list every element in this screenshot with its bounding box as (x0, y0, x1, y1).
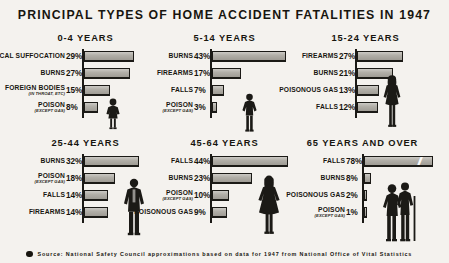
bar-rows: BURNS43%FIREARMS17%FALLS7%POISON(EXCEPT … (152, 48, 297, 116)
bar-row: POISONOUS GAS9% (152, 204, 297, 221)
bar-row: POISON(EXCEPT GAS)10% (152, 187, 297, 204)
bar-category-label: POISONOUS GAS (134, 204, 193, 221)
bar-container (212, 65, 241, 82)
bar-container (212, 48, 286, 65)
bar-value-label: 10% (194, 187, 210, 204)
bar-container (364, 187, 367, 204)
bar-category-label: FALLS (316, 99, 338, 116)
bar (212, 68, 241, 79)
bar-container (212, 99, 217, 116)
bar-category-label: POISON(EXCEPT GAS) (35, 99, 65, 116)
bar-category-label: FIREARMS (302, 48, 338, 65)
bar-category-name: POISONOUS GAS (279, 87, 338, 94)
bar-container (84, 204, 108, 221)
bar-category-label: FALLS (171, 153, 193, 170)
bar-category-name: FIREARMS (29, 209, 65, 216)
panel-title: 15-24 YEARS (293, 33, 438, 43)
bar-category-name: FALLS (323, 158, 345, 165)
bar-container (212, 170, 252, 187)
bar-row: POISONOUS GAS13% (293, 82, 438, 99)
bar-category-name: POISONOUS GAS (286, 192, 345, 199)
bar (357, 68, 393, 79)
bar-container (357, 82, 379, 99)
bar-row: FALLS12% (293, 99, 438, 116)
bar-row: FALLS7% (152, 82, 297, 99)
bar-category-name: FIREARMS (302, 53, 338, 60)
age-group-panel: 45-64 YEARSFALLS44%BURNS23%POISON(EXCEPT… (152, 138, 297, 238)
bar-category-label: POISON(EXCEPT GAS) (163, 99, 193, 116)
bar-container (212, 153, 288, 170)
bar-container (84, 187, 108, 204)
bar-row: BURNS23% (152, 170, 297, 187)
bar-value-label: 17% (194, 65, 210, 82)
bar (364, 190, 367, 201)
bar-category-name: BURNS (320, 175, 345, 182)
bar-category-sublabel: (EXCEPT GAS) (35, 109, 65, 113)
bar-container (84, 82, 110, 99)
bar-value-label: 32% (66, 153, 82, 170)
bar-category-label: POISONOUS GAS (279, 82, 338, 99)
bar-value-label: 14% (66, 187, 82, 204)
bar-row: FALLS78%// (290, 153, 435, 170)
bar-row: POISON(EXCEPT GAS)18% (13, 170, 158, 187)
bullet-dot-icon (26, 251, 33, 258)
bar (84, 207, 108, 218)
bar (212, 156, 288, 167)
bar-row: POISON(EXCEPT GAS)8% (13, 99, 158, 116)
bar-value-label: 21% (339, 65, 355, 82)
bar-container (84, 170, 115, 187)
bar-container (212, 204, 227, 221)
bar-value-label: 44% (194, 153, 210, 170)
bar-row: BURNS43% (152, 48, 297, 65)
bar-value-label: 1% (346, 204, 358, 221)
bar-value-label: 3% (194, 99, 206, 116)
bar-row: MECHANICAL SUFFOCATION29% (13, 48, 158, 65)
bar (212, 207, 227, 218)
axis-break-icon: // (418, 156, 427, 166)
bar-category-label: BURNS (320, 170, 345, 187)
age-group-panel: 0-4 YEARSMECHANICAL SUFFOCATION29%BURNS2… (13, 33, 158, 133)
bar-value-label: 8% (346, 170, 358, 187)
bar-row: FIREARMS17% (152, 65, 297, 82)
bar-value-label: 27% (66, 65, 82, 82)
bar-category-label: POISON(EXCEPT GAS) (315, 204, 345, 221)
bar-container (357, 65, 393, 82)
bar: // (364, 156, 433, 167)
bar-container (357, 99, 378, 116)
bar-value-label: 13% (339, 82, 355, 99)
bar (212, 85, 224, 96)
bar-category-label: FIREARMS (157, 65, 193, 82)
bar-row: FOREIGN BODIES(IN THROAT, ETC)15% (13, 82, 158, 99)
bar-container (84, 48, 134, 65)
bar-container (84, 65, 130, 82)
bar-row: FALLS14% (13, 187, 158, 204)
bar-row: BURNS21% (293, 65, 438, 82)
source-text: Source: National Safety Council approxim… (38, 251, 413, 257)
bar-category-name: MECHANICAL SUFFOCATION (0, 53, 65, 60)
bar-row: POISONOUS GAS2% (290, 187, 435, 204)
bar-rows: FIREARMS27%BURNS21%POISONOUS GAS13%FALLS… (293, 48, 438, 116)
bar-category-label: POISON(EXCEPT GAS) (35, 170, 65, 187)
bar-category-label: POISONOUS GAS (286, 187, 345, 204)
bar-category-name: FIREARMS (157, 70, 193, 77)
panel-title: 25-44 YEARS (13, 138, 158, 148)
bar-row: BURNS27% (13, 65, 158, 82)
bar-rows: FALLS78%//BURNS8%POISONOUS GAS2%POISON(E… (290, 153, 435, 221)
bar-category-sublabel: (EXCEPT GAS) (163, 197, 193, 201)
bar-value-label: 78% (346, 153, 362, 170)
age-group-panel: 5-14 YEARSBURNS43%FIREARMS17%FALLS7%POIS… (152, 33, 297, 133)
bar (212, 173, 252, 184)
bar-category-label: FALLS (171, 82, 193, 99)
bar-container (212, 82, 224, 99)
bar-category-label: BURNS (313, 65, 338, 82)
bar-rows: FALLS44%BURNS23%POISON(EXCEPT GAS)10%POI… (152, 153, 297, 221)
bar-value-label: 27% (339, 48, 355, 65)
bar-category-label: FALLS (43, 187, 65, 204)
bar (212, 190, 229, 201)
bar-row: FIREARMS27% (293, 48, 438, 65)
bar (364, 207, 367, 218)
source-footer: Source: National Safety Council approxim… (26, 251, 412, 258)
age-group-panel: 65 YEARS AND OVERFALLS78%//BURNS8%POISON… (290, 138, 435, 238)
bar-row: POISON(EXCEPT GAS)3% (152, 99, 297, 116)
bar-value-label: 18% (66, 170, 82, 187)
